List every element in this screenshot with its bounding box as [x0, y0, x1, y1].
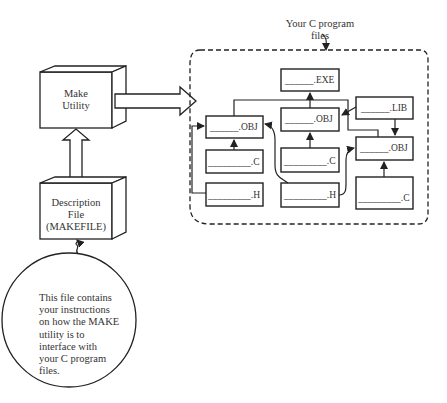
callout-note: This file contains your instructions on … [39, 292, 129, 377]
h-mid-label: _________.H [284, 190, 336, 201]
c-left-label: _________.C [208, 157, 259, 168]
obj-right-label: ______.OBJ [360, 143, 408, 154]
c-mid-label: _________.C [284, 156, 335, 167]
exe-label: ______.EXE [285, 75, 334, 86]
program-files-title: Your C program files [270, 18, 370, 42]
make-utility-label: Make Utility [40, 88, 112, 112]
lib-label: ______.LIB [361, 103, 407, 114]
makefile-to-make-arrow [63, 129, 89, 182]
c-right-label: _________.C [358, 193, 409, 204]
obj-left-label: ______.OBJ [210, 122, 258, 133]
obj-mid-label: ______.OBJ [285, 114, 333, 125]
description-file-label: Description File (MAKEFILE) [40, 197, 112, 233]
make-to-files-arrow [115, 87, 196, 115]
h-left-label: _________.H [208, 190, 260, 201]
